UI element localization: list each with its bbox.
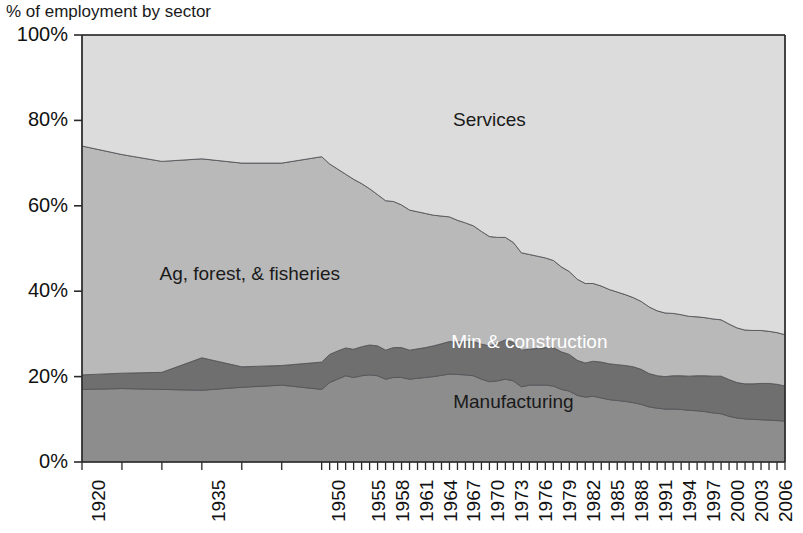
x-axis-tick-label: 1958 — [393, 480, 412, 522]
y-axis-tick-label: 100% — [0, 24, 68, 44]
x-axis-tick-label: 1961 — [417, 480, 436, 522]
y-axis-tick-label: 20% — [0, 366, 68, 386]
y-axis-tick-label: 60% — [0, 195, 68, 215]
employment-by-sector-chart: % of employment by sector 100%80%60%40%2… — [0, 0, 803, 533]
y-axis-tick-label: 0% — [0, 451, 68, 471]
x-axis-tick-label: 1976 — [536, 480, 555, 522]
x-axis-tick-label: 1920 — [89, 480, 108, 522]
series-label-services: Services — [453, 110, 526, 129]
x-axis-tick-label: 1955 — [369, 480, 388, 522]
x-axis-tick-label: 1973 — [512, 480, 531, 522]
x-axis-tick-label: 2000 — [728, 480, 747, 522]
x-axis-tick-label: 2006 — [776, 480, 795, 522]
stacked-areas-group — [82, 35, 785, 462]
x-axis-tick-label: 1994 — [680, 480, 699, 522]
x-axis-tick-label: 1982 — [584, 480, 603, 522]
series-label-ag-forest-fisheries: Ag, forest, & fisheries — [159, 264, 340, 283]
x-axis-tick-label: 1964 — [441, 480, 460, 522]
y-axis-tick-label: 40% — [0, 280, 68, 300]
x-axis-tick-label: 1950 — [329, 480, 348, 522]
x-axis-tick-label: 1967 — [464, 480, 483, 522]
x-axis-tick-label: 1970 — [488, 480, 507, 522]
x-axis-tick-label: 1985 — [608, 480, 627, 522]
chart-plot-area — [0, 0, 803, 533]
x-axis-tick-label: 1988 — [632, 480, 651, 522]
series-label-manufacturing: Manufacturing — [453, 392, 573, 411]
y-axis-tick-label: 80% — [0, 109, 68, 129]
x-axis-tick-label: 1997 — [704, 480, 723, 522]
x-axis-tick-label: 1991 — [656, 480, 675, 522]
x-axis-tick-label: 1979 — [560, 480, 579, 522]
x-axis-tick-label: 1935 — [209, 480, 228, 522]
series-label-min-construction: Min & construction — [451, 332, 607, 351]
x-axis-tick-label: 2003 — [752, 480, 771, 522]
